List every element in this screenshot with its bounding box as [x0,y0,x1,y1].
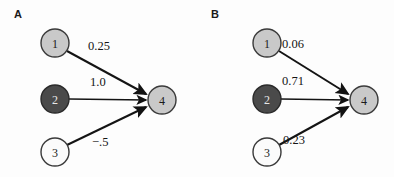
node-4-label: 4 [361,94,367,108]
edge-weight-2-4: 1.0 [90,76,106,89]
edge-weight-2-4: 0.71 [282,75,304,88]
node-2-label: 2 [264,93,270,107]
figure-container: A 1 2 3 4 0.25 1.0 − [0,0,394,177]
node-3-label: 3 [264,146,270,160]
edge-weight-3-4: 0.23 [283,134,305,147]
node-1-label: 1 [264,37,270,51]
edge-2-to-4 [69,99,146,100]
edge-weight-1-4: 0.06 [282,38,304,51]
node-4-label: 4 [159,94,165,108]
node-1-label: 1 [52,37,58,51]
node-3-label: 3 [52,146,58,160]
edge-weight-3-4: −.5 [92,136,108,149]
panel-a: A 1 2 3 4 0.25 1.0 − [0,0,197,177]
edge-1-to-4 [67,51,146,94]
edge-weight-1-4: 0.25 [88,40,110,53]
panel-b-graph: 1 2 3 4 [197,0,394,177]
panel-b: B 1 2 3 4 0.06 0.71 [197,0,394,177]
edge-2-to-4 [281,99,348,100]
node-2-label: 2 [52,93,58,107]
